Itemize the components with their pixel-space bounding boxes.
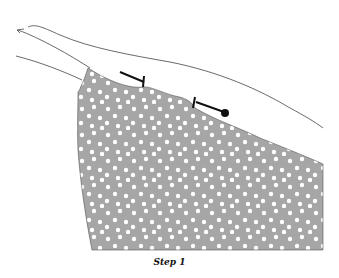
sewing-step-illustration — [0, 0, 339, 278]
fabric-edge-line — [18, 30, 90, 68]
fabric-lower-edge-line — [16, 56, 82, 80]
figure-caption: Step 1 — [0, 257, 339, 267]
dotted-fabric-piece — [78, 68, 323, 250]
